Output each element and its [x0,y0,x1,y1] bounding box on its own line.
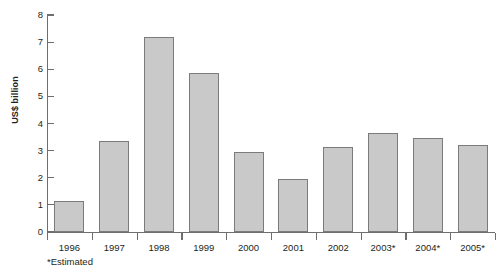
y-axis-labels: 012345678 [0,0,43,278]
bar-2003-est [368,133,398,232]
bar-1997 [99,141,129,232]
x-axis-label-1998: 1998 [137,242,182,253]
bar-1996 [54,201,84,232]
x-axis-separator-6 [316,233,317,240]
x-axis-label-2003-est: 2003* [361,242,406,253]
bar-chart: US$ billion 012345678 199619971998199920… [0,0,501,278]
bar-1998 [144,37,174,232]
y-tick-8 [48,14,54,15]
x-axis-label-1997: 1997 [92,242,137,253]
y-tick-2 [48,177,54,178]
y-tick-label-5: 5 [9,91,43,101]
y-tick-4 [48,123,54,124]
y-tick-label-6: 6 [9,64,43,74]
footnote: *Estimated [47,256,93,267]
y-tick-label-8: 8 [9,10,43,20]
bar-2002 [323,147,353,232]
x-axis-label-2002: 2002 [316,242,361,253]
bar-2005-est [458,145,488,232]
x-axis-label-2000: 2000 [226,242,271,253]
x-axis-separator-2 [137,233,138,240]
x-axis-label-1999: 1999 [181,242,226,253]
bar-2000 [234,152,264,232]
x-axis-label-2001: 2001 [271,242,316,253]
x-axis-separator-4 [226,233,227,240]
x-axis-separator-3 [181,233,182,240]
y-tick-5 [48,96,54,97]
x-axis-separator-1 [92,233,93,240]
y-tick-label-4: 4 [9,119,43,129]
x-axis-separator-9 [450,233,451,240]
x-axis-label-1996: 1996 [47,242,92,253]
x-axis-label-2005-est: 2005* [450,242,495,253]
x-axis-separator-start [47,233,48,240]
bar-2001 [278,179,308,232]
y-tick-label-3: 3 [9,146,43,156]
x-axis-label-2004-est: 2004* [405,242,450,253]
x-axis-separator-5 [271,233,272,240]
x-axis-separator-8 [405,233,406,240]
x-axis-separator-end [495,233,496,240]
y-tick-label-2: 2 [9,173,43,183]
y-tick-0 [48,231,54,232]
bar-1999 [189,73,219,232]
y-tick-7 [48,42,54,43]
y-tick-label-1: 1 [9,200,43,210]
y-tick-1 [48,204,54,205]
y-tick-3 [48,150,54,151]
y-tick-label-0: 0 [9,227,43,237]
y-tick-6 [48,69,54,70]
bar-2004-est [413,138,443,232]
y-tick-label-7: 7 [9,37,43,47]
x-axis-separator-7 [361,233,362,240]
